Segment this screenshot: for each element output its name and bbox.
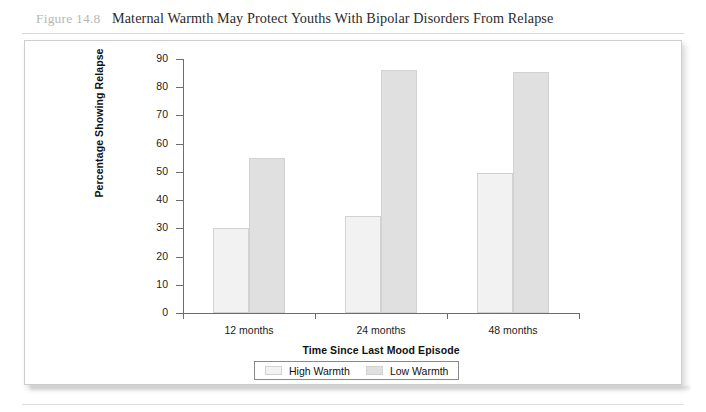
y-axis-tick-label: 30 bbox=[134, 222, 168, 233]
x-axis-tick-label: 24 months bbox=[326, 324, 436, 336]
y-axis-tick-label: 10 bbox=[134, 279, 168, 290]
y-axis-tick-label: 70 bbox=[134, 109, 168, 120]
x-axis-tick-label: 48 months bbox=[458, 324, 568, 336]
legend-swatch-high-warmth bbox=[265, 366, 282, 375]
y-axis-tick-label: 40 bbox=[134, 194, 168, 205]
legend-label-low-warmth: Low Warmth bbox=[390, 365, 449, 377]
x-axis-title: Time Since Last Mood Episode bbox=[183, 344, 579, 356]
plot-wrapper: Percentage Showing Relapse 0102030405060… bbox=[25, 41, 683, 386]
chart-panel: Percentage Showing Relapse 0102030405060… bbox=[24, 40, 682, 385]
y-axis-tick-label: 90 bbox=[134, 53, 168, 64]
chart-legend: High Warmth Low Warmth bbox=[254, 361, 459, 380]
y-axis-tick-label: 20 bbox=[134, 251, 168, 262]
bar-48-months-low-warmth bbox=[513, 72, 549, 313]
x-axis-line bbox=[183, 313, 580, 314]
bar-24-months-low-warmth bbox=[381, 70, 417, 313]
bar-12-months-high-warmth bbox=[213, 228, 249, 313]
legend-item-low-warmth: Low Warmth bbox=[366, 365, 449, 377]
figure-number-label: Figure 14.8 bbox=[36, 11, 100, 27]
y-axis-tick-label: 0 bbox=[134, 307, 168, 318]
header-divider bbox=[22, 33, 684, 34]
page-bottom-divider bbox=[22, 404, 684, 405]
figure-header: Figure 14.8 Maternal Warmth May Protect … bbox=[0, 0, 706, 34]
x-axis-tick bbox=[447, 313, 448, 319]
x-axis-tick bbox=[315, 313, 316, 319]
bar-12-months-low-warmth bbox=[249, 158, 285, 313]
y-axis-tick-label: 50 bbox=[134, 166, 168, 177]
legend-swatch-low-warmth bbox=[366, 366, 383, 375]
bar-24-months-high-warmth bbox=[345, 216, 381, 313]
figure-title: Maternal Warmth May Protect Youths With … bbox=[112, 10, 553, 27]
bar-48-months-high-warmth bbox=[477, 173, 513, 313]
panel-drop-shadow bbox=[30, 386, 690, 392]
x-axis-tick bbox=[183, 313, 184, 319]
legend-item-high-warmth: High Warmth bbox=[265, 365, 350, 377]
y-axis-title: Percentage Showing Relapse bbox=[93, 43, 105, 203]
x-axis-tick bbox=[579, 313, 580, 319]
y-axis-tick-label: 60 bbox=[134, 138, 168, 149]
y-axis-tick-label: 80 bbox=[134, 81, 168, 92]
plot-area bbox=[183, 59, 579, 313]
legend-label-high-warmth: High Warmth bbox=[289, 365, 350, 377]
x-axis-tick-label: 12 months bbox=[194, 324, 304, 336]
